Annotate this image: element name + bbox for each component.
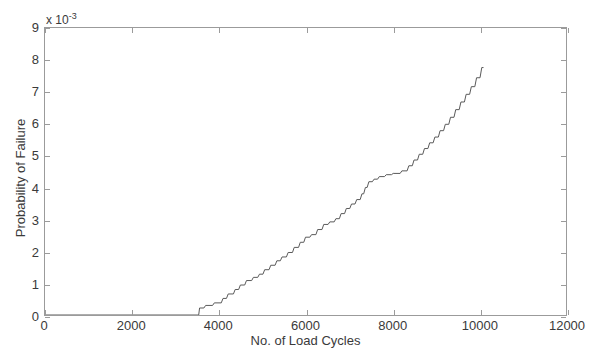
x-axis-tick — [307, 310, 308, 315]
y-axis-tick-label: 0 — [32, 309, 39, 324]
y-axis-tick — [45, 28, 50, 29]
y-axis-tick — [45, 92, 50, 93]
plot-area — [44, 27, 567, 316]
y-axis-tick — [45, 221, 50, 222]
y-axis-tick-right — [561, 124, 566, 125]
figure-canvas: x 10-3 No. of Load Cycles Probability of… — [0, 0, 590, 350]
x-axis-tick — [568, 310, 569, 315]
y-axis-tick-label: 2 — [32, 244, 39, 259]
x-axis-tick-top — [307, 28, 308, 33]
x-axis-tick-label: 6000 — [291, 318, 320, 333]
y-axis-tick-right — [561, 221, 566, 222]
x-axis-tick-top — [219, 28, 220, 33]
y-axis-tick-label: 3 — [32, 212, 39, 227]
x-axis-tick-label: 4000 — [204, 318, 233, 333]
x-axis-tick — [394, 310, 395, 315]
y-axis-tick-label: 7 — [32, 84, 39, 99]
x-axis-tick-label: 0 — [40, 318, 47, 333]
y-axis-tick-label: 4 — [32, 180, 39, 195]
y-axis-tick-label: 6 — [32, 116, 39, 131]
x-axis-tick — [45, 310, 46, 315]
x-axis-tick-label: 12000 — [549, 318, 585, 333]
y-axis-tick-right — [561, 189, 566, 190]
y-axis-tick — [45, 253, 50, 254]
probability-of-failure-line — [45, 68, 484, 315]
y-axis-multiplier-base: x 10 — [46, 13, 69, 27]
y-axis-label: Probability of Failure — [14, 78, 28, 278]
x-axis-tick — [219, 310, 220, 315]
y-axis-tick — [45, 156, 50, 157]
y-axis-tick-right — [561, 156, 566, 157]
y-axis-tick-label: 5 — [32, 148, 39, 163]
y-axis-tick-right — [561, 60, 566, 61]
x-axis-tick-label: 8000 — [378, 318, 407, 333]
y-axis-tick-right — [561, 28, 566, 29]
x-axis-tick — [132, 310, 133, 315]
y-axis-multiplier-exponent: -3 — [69, 11, 77, 21]
y-axis-tick — [45, 189, 50, 190]
x-axis-tick-top — [481, 28, 482, 33]
y-axis-tick — [45, 60, 50, 61]
x-axis-tick-label: 10000 — [462, 318, 498, 333]
x-axis-tick-top — [132, 28, 133, 33]
y-axis-tick — [45, 285, 50, 286]
y-axis-multiplier: x 10-3 — [46, 10, 77, 27]
y-axis-tick — [45, 124, 50, 125]
x-axis-tick-label: 2000 — [117, 318, 146, 333]
y-axis-tick-right — [561, 253, 566, 254]
y-axis-tick-label: 8 — [32, 52, 39, 67]
y-axis-tick-label: 1 — [32, 276, 39, 291]
y-axis-tick-right — [561, 285, 566, 286]
y-axis-tick-right — [561, 92, 566, 93]
x-axis-label: No. of Load Cycles — [44, 334, 567, 348]
y-axis-tick-label: 9 — [32, 20, 39, 35]
x-axis-tick — [481, 310, 482, 315]
data-curve — [45, 28, 566, 315]
x-axis-tick-top — [394, 28, 395, 33]
x-axis-tick-top — [568, 28, 569, 33]
